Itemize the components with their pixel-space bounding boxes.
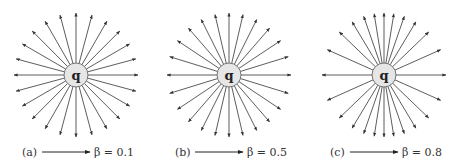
field-line [22, 44, 65, 69]
field-line [82, 21, 107, 64]
field-line [386, 87, 394, 136]
field-line [388, 86, 404, 133]
field-line [60, 87, 73, 135]
field-line [390, 85, 416, 128]
field-line [237, 28, 270, 66]
field-line [232, 87, 243, 136]
field-line [364, 86, 380, 133]
field-line [32, 31, 67, 66]
panel-label-a: (a) [22, 146, 37, 159]
field-line [395, 80, 441, 100]
field-line [352, 22, 378, 65]
field-line [239, 41, 281, 69]
field-line [22, 81, 65, 106]
field-line [395, 50, 441, 70]
field-line [79, 87, 92, 135]
field-line [215, 87, 226, 136]
charge-label-a: q [71, 68, 80, 83]
field-line [234, 86, 256, 131]
field-line [86, 81, 129, 106]
field-line [201, 86, 223, 131]
panel-label-b: (b) [175, 146, 191, 159]
field-line [170, 57, 218, 72]
field-line [339, 32, 375, 67]
panel-a: q (a) β = 0.1 [14, 13, 138, 159]
field-line [388, 16, 404, 63]
field-line [393, 32, 429, 67]
field-line [327, 80, 373, 100]
field-line [45, 21, 70, 64]
field-line [215, 15, 226, 64]
field-line [188, 28, 221, 66]
charge-label-b: q [224, 68, 233, 83]
field-line [84, 84, 119, 119]
field-line [45, 85, 70, 128]
field-line [352, 85, 378, 128]
field-line [239, 82, 281, 110]
field-line [240, 79, 288, 94]
field-line [170, 79, 218, 94]
field-line [327, 50, 373, 70]
field-line [79, 15, 92, 63]
field-line [32, 84, 67, 119]
panel-c: q (c) β = 0.8 [322, 13, 446, 159]
field-line [339, 83, 375, 118]
field-line [188, 84, 221, 122]
beta-label-c: β = 0.8 [402, 146, 442, 159]
field-line [84, 31, 119, 66]
charge-label-c: q [379, 68, 388, 83]
field-line [86, 44, 129, 69]
field-line [88, 78, 136, 91]
field-line [390, 22, 416, 65]
field-line [82, 85, 107, 128]
field-line [386, 14, 394, 63]
field-line [234, 20, 256, 65]
field-line [237, 84, 270, 122]
field-line [177, 82, 219, 110]
field-line [364, 16, 380, 63]
panel-b: q (b) β = 0.5 [167, 13, 291, 159]
field-line [374, 14, 382, 63]
field-lines-figure: q (a) β = 0.1 q (b) β = 0.5 q (c) β = 0.… [0, 0, 458, 164]
panel-label-c: (c) [330, 146, 345, 159]
field-line [201, 20, 223, 65]
field-line [16, 59, 64, 72]
field-line [177, 41, 219, 69]
beta-label-a: β = 0.1 [94, 146, 134, 159]
field-line [393, 83, 429, 118]
field-line [88, 59, 136, 72]
field-line [16, 78, 64, 91]
beta-label-b: β = 0.5 [247, 146, 287, 159]
field-line [374, 87, 382, 136]
field-line [240, 57, 288, 72]
field-line [232, 15, 243, 64]
field-line [60, 15, 73, 63]
